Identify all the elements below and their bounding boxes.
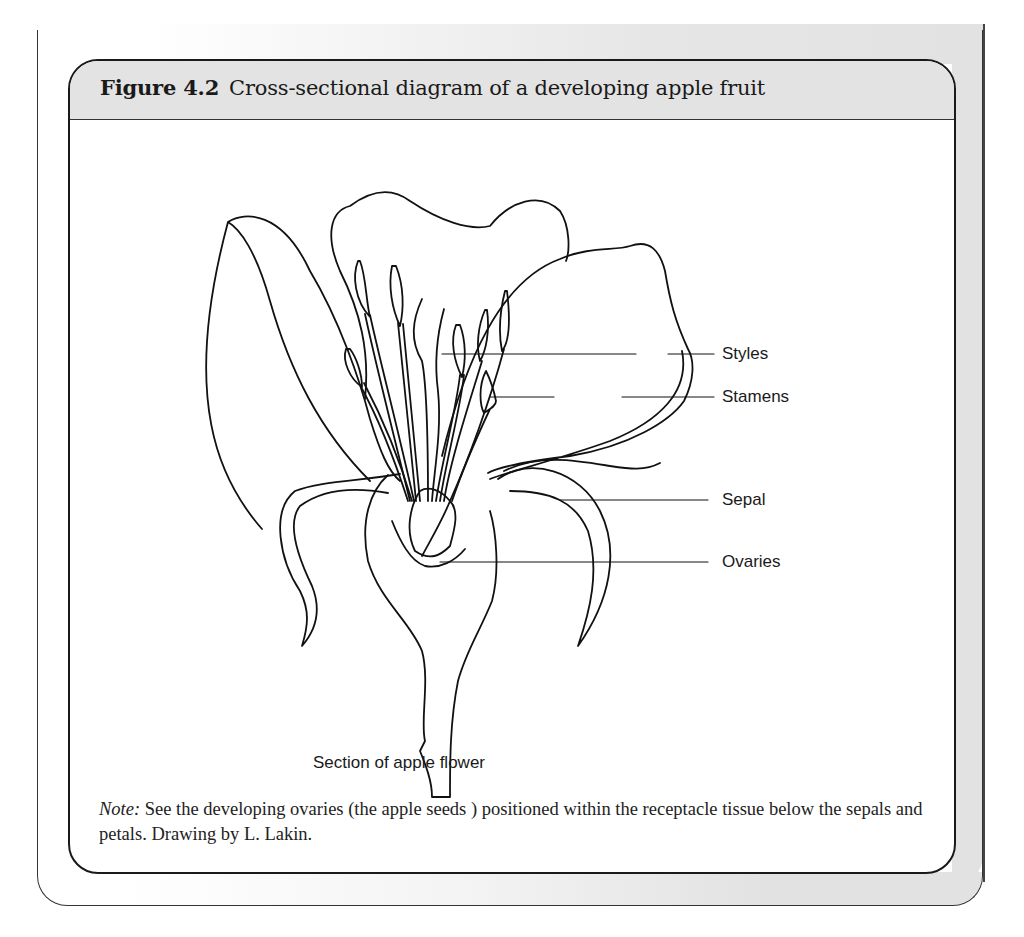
apple-flower-diagram (70, 61, 956, 874)
receptacle (365, 475, 496, 797)
stamen (355, 261, 414, 501)
left-petal (206, 216, 400, 529)
style (432, 309, 444, 501)
style (414, 299, 428, 501)
label-styles: Styles (722, 344, 768, 364)
note-text: See the developing ovaries (the apple se… (99, 799, 923, 844)
figure-note: Note: See the developing ovaries (the ap… (99, 797, 939, 847)
diagram-caption: Section of apple flower (313, 753, 485, 773)
outer-frame-right-edge (983, 24, 985, 882)
right-sepal (498, 468, 610, 646)
label-stamens: Stamens (722, 387, 789, 407)
label-sepal: Sepal (722, 490, 765, 510)
note-label: Note: (99, 799, 140, 819)
figure-box: Figure 4.2Cross-sectional diagram of a d… (68, 59, 956, 874)
label-ovaries: Ovaries (722, 552, 781, 572)
left-sepal (280, 474, 400, 646)
stamen-group (345, 261, 509, 501)
